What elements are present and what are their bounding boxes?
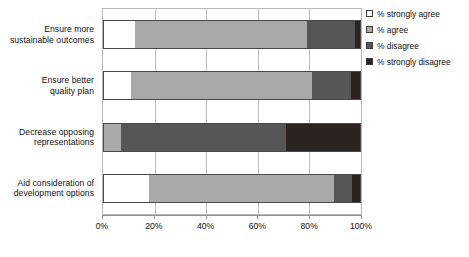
category-label-line: Ensure more (0, 24, 94, 35)
bar-segment (334, 174, 352, 203)
bar-row (103, 20, 361, 49)
plot-area (102, 8, 362, 215)
category-label: Ensure moresustainable outcomes (0, 24, 94, 45)
legend-item[interactable]: % strongly disagree (366, 54, 469, 69)
x-axis-tick-labels: 0%20%40%60%80%100% (102, 221, 362, 237)
bar-segment (351, 71, 361, 100)
x-tick (154, 215, 155, 219)
x-tick (309, 215, 310, 219)
x-tick (102, 215, 103, 219)
category-label-line: Ensure better (0, 75, 94, 86)
chart-legend: % strongly agree% agree% disagree% stron… (366, 6, 469, 70)
stacked-bar-chart: Ensure moresustainable outcomesEnsure be… (0, 0, 469, 257)
bar-segment (312, 71, 351, 100)
bar-segment (352, 174, 361, 203)
legend-swatch-icon (366, 42, 373, 49)
category-label-line: development options (0, 188, 94, 199)
bar-segment (355, 20, 361, 49)
bar-segment (103, 71, 131, 100)
x-tick-label: 0% (96, 221, 108, 232)
x-tick-label: 80% (301, 221, 318, 232)
x-tick-label: 40% (197, 221, 214, 232)
legend-label: % disagree (377, 41, 419, 51)
legend-item[interactable]: % disagree (366, 38, 469, 53)
bar-row (103, 174, 361, 203)
bar-segment (286, 123, 361, 152)
category-label: Decrease opposingrepresentations (0, 127, 94, 148)
legend-item[interactable]: % strongly agree (366, 6, 469, 21)
bar-row (103, 123, 361, 152)
legend-item[interactable]: % agree (366, 22, 469, 37)
legend-swatch-icon (366, 26, 373, 33)
bar-segment (149, 174, 333, 203)
bar-segment (135, 20, 307, 49)
category-label: Ensure betterquality plan (0, 75, 94, 96)
bar-segment (131, 71, 312, 100)
category-label: Aid consideration ofdevelopment options (0, 178, 94, 199)
legend-swatch-icon (366, 10, 373, 17)
category-label-line: sustainable outcomes (0, 35, 94, 46)
legend-label: % strongly agree (377, 9, 440, 19)
bar-row (103, 71, 361, 100)
x-tick (257, 215, 258, 219)
legend-label: % strongly disagree (377, 57, 451, 67)
x-tick-label: 60% (249, 221, 266, 232)
legend-label: % agree (377, 25, 408, 35)
category-label-line: Aid consideration of (0, 178, 94, 189)
category-axis-labels: Ensure moresustainable outcomesEnsure be… (0, 0, 98, 215)
legend-swatch-icon (366, 58, 373, 65)
bar-segment (121, 123, 286, 152)
bar-segment (307, 20, 355, 49)
bar-segment (103, 20, 135, 49)
bar-segment (103, 174, 149, 203)
x-tick (361, 215, 362, 219)
category-label-line: quality plan (0, 86, 94, 97)
x-tick-label: 100% (350, 221, 372, 232)
bar-segment (103, 123, 121, 152)
plot-inner (103, 9, 361, 214)
x-axis-line (102, 215, 362, 216)
category-label-line: Decrease opposing (0, 127, 94, 138)
category-label-line: representations (0, 137, 94, 148)
x-tick (206, 215, 207, 219)
x-tick-label: 20% (145, 221, 162, 232)
